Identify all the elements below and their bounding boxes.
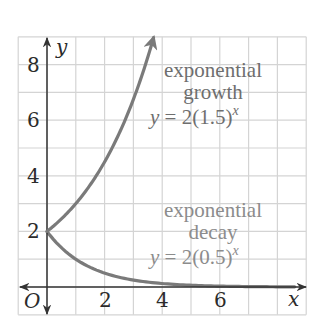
growth-annotation: exponential growth y = 2(1.5)x — [148, 58, 262, 129]
growth-equation: y = 2(1.5)x — [148, 103, 239, 129]
growth-curve — [47, 38, 154, 232]
x-tick-4: 4 — [156, 288, 169, 312]
y-tick-4: 4 — [27, 164, 40, 188]
grid — [18, 37, 306, 315]
growth-eq-lhs: y — [148, 105, 160, 129]
y-tick-2: 2 — [27, 219, 40, 243]
growth-eq-exp: x — [231, 103, 239, 118]
origin-label: O — [24, 289, 40, 313]
y-tick-6: 6 — [27, 108, 40, 132]
decay-eq-rhs: = 2(0.5) — [159, 245, 232, 269]
growth-label-line1: exponential — [164, 58, 262, 82]
decay-label-line2: decay — [189, 220, 238, 244]
decay-eq-exp: x — [231, 243, 239, 258]
y-axis-label: y — [55, 35, 68, 59]
decay-annotation: exponential decay y = 2(0.5)x — [148, 198, 262, 269]
y-tick-8: 8 — [27, 53, 40, 77]
x-axis-label: x — [288, 287, 299, 311]
decay-label-line1: exponential — [164, 198, 262, 222]
x-tick-2: 2 — [99, 288, 112, 312]
decay-equation: y = 2(0.5)x — [148, 243, 239, 269]
x-tick-6: 6 — [214, 288, 227, 312]
growth-eq-rhs: = 2(1.5) — [159, 105, 232, 129]
exponential-chart: 8 6 4 2 2 4 6 O x y exponential growth y… — [0, 0, 316, 328]
growth-label-line2: growth — [183, 80, 243, 104]
decay-eq-lhs: y — [148, 245, 160, 269]
